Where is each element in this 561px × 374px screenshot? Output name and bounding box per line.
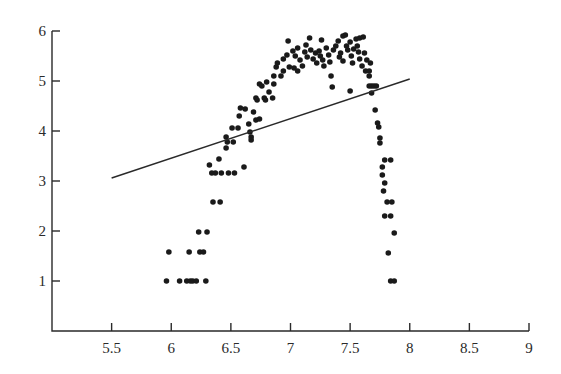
data-point: [186, 249, 192, 255]
x-tick-label: 8: [406, 340, 414, 356]
data-point: [217, 199, 223, 205]
data-point: [366, 73, 372, 79]
data-point: [347, 39, 353, 45]
data-point: [216, 156, 222, 162]
axes: [52, 31, 529, 331]
data-point: [320, 57, 326, 63]
data-point: [213, 170, 219, 176]
data-point: [354, 43, 360, 49]
data-point: [270, 95, 276, 101]
data-point: [241, 164, 247, 170]
x-tick-label: 6.5: [222, 340, 241, 356]
data-point: [380, 172, 386, 178]
data-point: [384, 199, 390, 205]
data-point: [388, 157, 394, 163]
data-point: [210, 199, 216, 205]
data-point: [350, 60, 356, 66]
y-axis-ticks: 123456: [39, 23, 61, 289]
y-tick-label: 2: [39, 223, 47, 239]
scatter-chart: 5.566.577.588.59 123456: [0, 0, 561, 374]
data-point: [345, 47, 351, 53]
data-point: [307, 35, 313, 41]
data-point: [284, 52, 290, 58]
data-point: [376, 124, 382, 130]
data-point: [366, 83, 372, 89]
data-point: [246, 121, 252, 127]
x-axis-ticks: 5.566.577.588.59: [102, 323, 533, 356]
data-point: [257, 116, 263, 122]
data-point: [357, 56, 363, 62]
data-point: [362, 50, 368, 56]
data-point: [295, 45, 301, 51]
y-tick-label: 4: [39, 123, 47, 139]
y-tick-label: 6: [39, 23, 47, 39]
x-tick-label: 6: [168, 340, 176, 356]
y-tick-label: 1: [39, 273, 47, 289]
data-point: [232, 170, 238, 176]
data-point: [314, 60, 320, 66]
data-point: [242, 106, 248, 112]
data-point: [166, 249, 172, 255]
y-tick-label: 5: [39, 73, 47, 89]
data-point: [207, 162, 213, 168]
data-point: [368, 60, 374, 66]
data-point: [374, 83, 380, 89]
x-tick-label: 7: [287, 340, 295, 356]
data-point: [254, 97, 260, 103]
data-point: [335, 38, 341, 44]
data-point: [196, 229, 202, 235]
data-point: [328, 73, 334, 79]
data-point: [333, 43, 339, 49]
data-point: [271, 73, 277, 79]
data-point: [377, 140, 383, 146]
data-point: [201, 249, 207, 255]
data-point: [372, 107, 378, 113]
data-point: [323, 45, 329, 51]
data-point: [382, 213, 388, 219]
data-point: [382, 180, 388, 186]
data-point: [285, 38, 291, 44]
data-point: [300, 63, 306, 69]
data-point: [278, 73, 284, 79]
data-point: [308, 47, 314, 53]
data-point: [391, 278, 397, 284]
data-point: [251, 109, 257, 115]
data-point: [229, 125, 235, 131]
data-point: [356, 49, 362, 55]
data-point: [248, 137, 254, 143]
data-point: [271, 81, 277, 87]
x-tick-label: 8.5: [460, 340, 479, 356]
data-point: [203, 278, 209, 284]
regression-line: [112, 79, 410, 178]
data-point: [236, 113, 242, 119]
data-point: [226, 170, 232, 176]
data-point: [385, 250, 391, 256]
data-point: [281, 68, 287, 74]
data-point: [303, 42, 309, 48]
data-point: [261, 95, 267, 101]
data-point: [302, 49, 308, 55]
data-point: [204, 229, 210, 235]
data-point: [287, 64, 293, 70]
data-point: [389, 199, 395, 205]
y-tick-label: 3: [39, 173, 47, 189]
data-point: [292, 53, 298, 59]
data-point: [266, 89, 272, 95]
data-point: [264, 79, 270, 85]
data-point: [388, 213, 394, 219]
data-point: [360, 34, 366, 40]
data-point: [304, 54, 310, 60]
data-point: [230, 139, 236, 145]
data-point: [329, 84, 335, 90]
data-point: [223, 145, 229, 151]
data-point: [295, 68, 301, 74]
data-point: [349, 53, 355, 59]
x-tick-label: 9: [525, 340, 533, 356]
data-point: [164, 278, 170, 284]
data-point: [275, 60, 281, 66]
data-point: [290, 48, 296, 54]
data-point: [235, 125, 241, 131]
data-points: [164, 32, 397, 284]
data-point: [366, 68, 372, 74]
data-point: [177, 278, 183, 284]
